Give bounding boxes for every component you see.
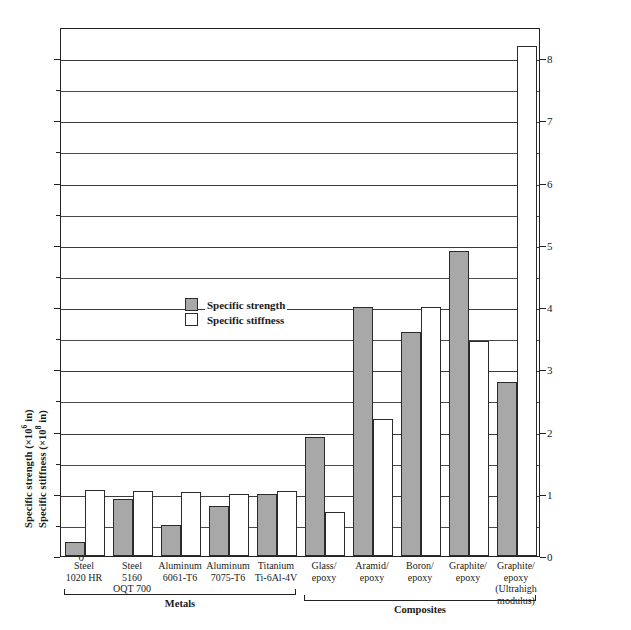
y-axis-tick-mark <box>540 246 546 247</box>
x-axis-category-label: Graphite/epoxy <box>444 560 492 583</box>
bar-strength <box>65 542 84 556</box>
x-axis-category-line: epoxy <box>492 572 540 584</box>
x-axis-category-label: Aluminum7075-T6 <box>204 560 252 583</box>
bar-stiffness <box>469 341 488 556</box>
y-axis-tick-mark <box>540 184 546 185</box>
x-axis-category-label: Steel1020 HR <box>60 560 108 583</box>
x-axis-category-line: 5160 <box>108 572 156 584</box>
x-axis-category-line: epoxy <box>444 572 492 584</box>
y-axis-title: Specific strength (×106 in) Specific sti… <box>6 28 48 557</box>
chart-root: Specific strength (×106 in) Specific sti… <box>0 0 631 630</box>
bar-strength <box>449 251 468 556</box>
bar-stiffness <box>133 491 152 556</box>
bar-stiffness <box>421 307 440 556</box>
y-axis-tick-label-right: 7 <box>547 116 565 127</box>
x-axis-category-line: Aramid/ <box>348 560 396 572</box>
x-axis-category-line: (Ultrahigh <box>492 583 540 595</box>
x-axis-category-line: Boron/ <box>396 560 444 572</box>
bar-strength <box>113 499 132 556</box>
x-axis-category-line: epoxy <box>300 572 348 584</box>
x-axis-category-line: 6061-T6 <box>156 572 204 584</box>
y-axis-tick-mark <box>540 495 546 496</box>
x-axis-category-line: Steel <box>108 560 156 572</box>
x-axis-category-line: Graphite/ <box>444 560 492 572</box>
y-axis-tick-label-right: 6 <box>547 178 565 189</box>
y-axis-tick-label-right: 0 <box>547 552 565 563</box>
bar-strength <box>497 382 516 556</box>
y-axis-tick-mark <box>540 370 546 371</box>
x-axis-category-label: Aramid/epoxy <box>348 560 396 583</box>
group-bracket-metals <box>64 589 296 595</box>
bar-stiffness <box>181 492 200 556</box>
legend-item-specific-stiffness: Specific stiffness <box>185 313 287 326</box>
bar-strength <box>401 332 420 556</box>
bar-stiffness <box>517 46 536 556</box>
x-axis-category-line: 7075-T6 <box>204 572 252 584</box>
y-axis-tick-label-right: 8 <box>547 54 565 65</box>
x-axis-category-line: Aluminum <box>156 560 204 572</box>
bar-strength <box>353 307 372 556</box>
x-axis-category-line: Ti-6Al-4V <box>252 572 300 584</box>
y-axis-tick-label-right: 3 <box>547 365 565 376</box>
legend-swatch-stiffness <box>185 313 198 326</box>
bar-stiffness <box>277 491 296 556</box>
y-axis-tick-mark <box>540 433 546 434</box>
x-axis-category-line: Aluminum <box>204 560 252 572</box>
bar-strength <box>305 437 324 556</box>
y-axis-tick-mark <box>540 557 546 558</box>
legend-swatch-strength <box>185 298 198 311</box>
y-axis-tick-mark <box>540 59 546 60</box>
y-axis-tick-label-right: 5 <box>547 240 565 251</box>
legend-label-stiffness: Specific stiffness <box>205 314 286 326</box>
y-axis-title-line2: Specific stiffness (×108 in) <box>34 410 48 528</box>
y-axis-tick-mark <box>540 121 546 122</box>
group-bracket-composites <box>304 595 536 601</box>
x-axis-category-line: epoxy <box>396 572 444 584</box>
x-axis-category-line: epoxy <box>348 572 396 584</box>
group-bracket-label-metals: Metals <box>64 598 296 609</box>
bar-stiffness <box>373 419 392 556</box>
x-axis-category-label: Boron/epoxy <box>396 560 444 583</box>
x-axis-category-line: Glass/ <box>300 560 348 572</box>
x-axis-category-line: Steel <box>60 560 108 572</box>
y-axis-tick-label-right: 1 <box>547 489 565 500</box>
bar-stiffness <box>229 494 248 556</box>
legend-item-specific-strength: Specific strength <box>185 298 287 311</box>
bar-strength <box>209 506 228 556</box>
x-axis-category-label: Glass/epoxy <box>300 560 348 583</box>
bar-stiffness <box>85 490 104 556</box>
x-axis-category-label: Aluminum6061-T6 <box>156 560 204 583</box>
plot-area: Specific strength Specific stiffness <box>60 28 540 557</box>
chart-legend: Specific strength Specific stiffness <box>185 298 287 326</box>
x-axis-category-label: TitaniumTi-6Al-4V <box>252 560 300 583</box>
y-axis-tick-mark <box>54 557 60 558</box>
y-axis-tick-label-right: 2 <box>547 427 565 438</box>
bar-strength <box>257 494 276 556</box>
bar-strength <box>161 525 180 556</box>
group-bracket-label-composites: Composites <box>304 604 536 615</box>
x-axis-category-line: 1020 HR <box>60 572 108 584</box>
y-axis-title-line1: Specific strength (×106 in) <box>20 409 34 528</box>
y-axis-tick-mark <box>540 308 546 309</box>
legend-label-strength: Specific strength <box>205 299 287 311</box>
x-axis-category-line: Graphite/ <box>492 560 540 572</box>
y-axis-tick-label-right: 4 <box>547 303 565 314</box>
x-axis-category-line: Titanium <box>252 560 300 572</box>
bar-series-layer <box>61 29 539 556</box>
bar-stiffness <box>325 512 344 556</box>
